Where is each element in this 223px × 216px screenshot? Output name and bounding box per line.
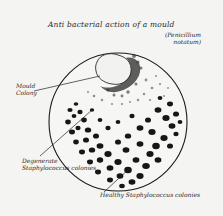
label-degenerate-line-1: Degenerate (22, 157, 96, 164)
label-degenerate-line-2: Staphylococcus colonies (22, 164, 96, 171)
sketch-page: Anti bacterial action of a mould (Penici… (0, 0, 223, 216)
label-healthy-colonies: Healthy Staphylococcus colonies (100, 191, 200, 198)
drawing-subtitle: (Penicillium notatum) (165, 31, 201, 45)
label-mould-colony: Mould Colony (16, 82, 37, 96)
subtitle-line-2: notatum) (165, 38, 201, 45)
drawing-title: Anti bacterial action of a mould (48, 20, 175, 29)
subtitle-line-1: (Penicillium (165, 31, 201, 38)
label-mould-line-2: Colony (16, 89, 37, 96)
label-degenerate-colonies: Degenerate Staphylococcus colonies (22, 157, 96, 171)
label-mould-line-1: Mould (16, 82, 37, 89)
